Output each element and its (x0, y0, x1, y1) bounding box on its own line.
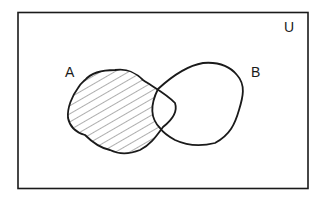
set-a-label: A (65, 64, 75, 80)
set-b-label: B (251, 64, 260, 80)
venn-diagram: U A B (0, 0, 324, 197)
universe-label: U (284, 19, 294, 35)
universe-rectangle (18, 13, 308, 189)
set-b-outline (152, 63, 243, 146)
